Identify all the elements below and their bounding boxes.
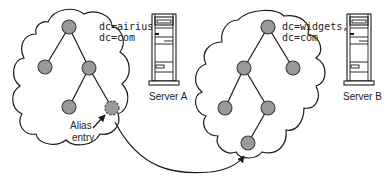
left-root-node [62, 20, 76, 34]
directory-alias-diagram: dc=airius, dc=com Alias entry Server A [0, 0, 392, 182]
alias-label-2: entry [72, 132, 94, 143]
right-grandchild-node [218, 101, 232, 115]
server-a-icon [149, 14, 179, 85]
right-tree-dn-label-2: dc=com [282, 32, 318, 43]
left-tree-dn-label-1: dc=airius, [99, 21, 159, 32]
right-child-node [237, 61, 251, 75]
right-grandchild-node [261, 101, 275, 115]
server-b-icon [344, 14, 374, 85]
alias-target-node [241, 136, 255, 150]
right-tree-dn-label-1: dc=widgets, [282, 21, 348, 32]
left-child-node [38, 60, 52, 74]
left-child-node [82, 61, 96, 75]
right-root-node [261, 20, 275, 34]
left-tree-dn-label-2: dc=com [99, 32, 135, 43]
server-b-label: Server B [343, 91, 382, 102]
left-grandchild-node [62, 100, 76, 114]
server-a-label: Server A [149, 91, 188, 102]
alias-entry-node [105, 101, 119, 115]
right-child-node [286, 61, 300, 75]
alias-label-1: Alias [70, 120, 92, 131]
